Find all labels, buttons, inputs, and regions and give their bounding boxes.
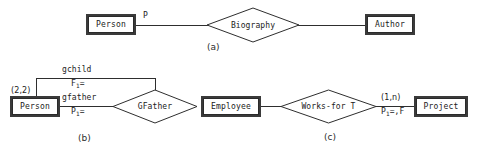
diamond-shape-works-for — [280, 89, 377, 124]
entity-person-a[interactable]: Person — [88, 16, 134, 33]
edge-label-p-a: P — [143, 11, 148, 20]
relationship-gfather[interactable]: GFather — [112, 89, 198, 124]
cardinality-label-c: (1,n) — [381, 93, 400, 102]
caption-a: (a) — [207, 42, 220, 52]
edge-constraint-gchild-sub: 1 — [76, 82, 80, 89]
diamond-shape-biography — [206, 7, 300, 43]
caption-c: (c) — [324, 132, 336, 142]
caption-b: (b) — [78, 133, 91, 143]
entity-employee-label: Employee — [211, 102, 251, 111]
edge-constraint-gfather: P1= — [71, 107, 85, 116]
edge-constraint-gfather-suffix: = — [80, 107, 85, 116]
entity-author[interactable]: Author — [367, 16, 413, 33]
entity-author-label: Author — [375, 20, 405, 29]
entity-project[interactable]: Project — [416, 98, 466, 115]
edge-constraint-gfather-sub: 1 — [76, 110, 80, 117]
edge-constraint-project-suffix: =,F — [390, 107, 405, 116]
entity-project-label: Project — [423, 102, 458, 111]
edge-gchild-horizontal — [36, 78, 155, 79]
cardinality-label-b: (2,2) — [11, 86, 30, 95]
edge-gfather-horizontal — [58, 106, 113, 107]
er-diagram-canvas: Person Biography Author P (a) Person GFa… — [0, 0, 481, 154]
entity-employee[interactable]: Employee — [203, 98, 259, 115]
edge-constraint-gchild: F1= — [71, 79, 85, 88]
edge-constraint-project: P1=,F — [381, 107, 404, 116]
diamond-shape-gfather — [112, 89, 198, 124]
edge-person-biography — [133, 25, 208, 26]
edge-label-gfather: gfather — [62, 93, 96, 102]
entity-person-b-label: Person — [20, 102, 50, 111]
edge-constraint-project-sub: 1 — [386, 110, 390, 117]
entity-person-a-label: Person — [96, 20, 126, 29]
relationship-works-for[interactable]: Works-for T — [280, 89, 377, 124]
edge-employee-worksfor — [258, 106, 281, 107]
edge-gchild-vertical-left — [36, 78, 37, 100]
entity-person-b[interactable]: Person — [12, 98, 58, 115]
relationship-biography[interactable]: Biography — [206, 7, 300, 43]
edge-constraint-gchild-suffix: = — [80, 79, 85, 88]
edge-label-gchild: gchild — [62, 65, 92, 74]
edge-biography-author — [298, 25, 368, 26]
